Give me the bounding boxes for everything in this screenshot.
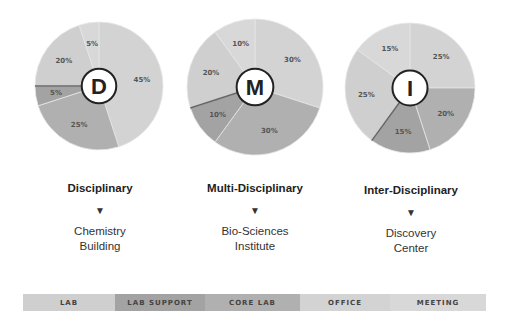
center-letter: D — [91, 74, 107, 99]
legend-item-lab-support: LAB SUPPORT — [115, 294, 205, 311]
down-arrow-icon: ▼ — [20, 206, 180, 216]
legend-item-office: OFFICE — [300, 294, 390, 311]
legend-bar: LABLAB SUPPORTCORE LABOFFICEMEETING — [23, 294, 486, 311]
down-arrow-icon: ▼ — [175, 206, 335, 216]
down-arrow-icon: ▼ — [331, 208, 491, 218]
slice-percent-label: 20% — [55, 57, 72, 65]
slice-percent-label: 10% — [209, 111, 226, 119]
building-name: Bio-Sciences Institute — [175, 224, 335, 254]
column-disciplinary: Disciplinary ▼ Chemistry Building — [20, 182, 180, 254]
pie-chart-inter-disciplinary: 25%20%15%25%15%I — [343, 21, 477, 155]
legend-item-core-lab: CORE LAB — [205, 294, 300, 311]
slice-percent-label: 20% — [437, 110, 454, 118]
column-inter-disciplinary: Inter-Disciplinary ▼ Discovery Center — [331, 184, 491, 256]
column-multi-disciplinary: Multi-Disciplinary ▼ Bio-Sciences Instit… — [175, 182, 335, 254]
slice-percent-label: 30% — [261, 127, 278, 135]
center-letter: M — [246, 75, 264, 100]
slice-percent-label: 15% — [395, 128, 412, 136]
slice-percent-label: 45% — [134, 76, 151, 84]
slice-percent-label: 25% — [358, 91, 375, 99]
slice-percent-label: 5% — [50, 89, 62, 97]
legend-item-lab: LAB — [23, 294, 115, 311]
slice-percent-label: 25% — [71, 121, 88, 129]
slice-percent-label: 25% — [433, 53, 450, 61]
category-title: Disciplinary — [20, 182, 180, 194]
pie-chart-disciplinary: 45%25%5%20%5%D — [33, 20, 165, 152]
slice-percent-label: 10% — [232, 40, 249, 48]
slice-percent-label: 15% — [382, 45, 399, 53]
category-title: Multi-Disciplinary — [175, 182, 335, 194]
slice-percent-label: 20% — [203, 69, 220, 77]
building-name: Discovery Center — [331, 226, 491, 256]
slice-percent-label: 30% — [284, 56, 301, 64]
center-letter: I — [407, 76, 413, 101]
legend-item-meeting: MEETING — [390, 294, 486, 311]
building-name: Chemistry Building — [20, 224, 180, 254]
pie-chart-multi-disciplinary: 30%30%10%20%10%M — [185, 17, 325, 157]
slice-percent-label: 5% — [86, 40, 98, 48]
category-title: Inter-Disciplinary — [331, 184, 491, 196]
